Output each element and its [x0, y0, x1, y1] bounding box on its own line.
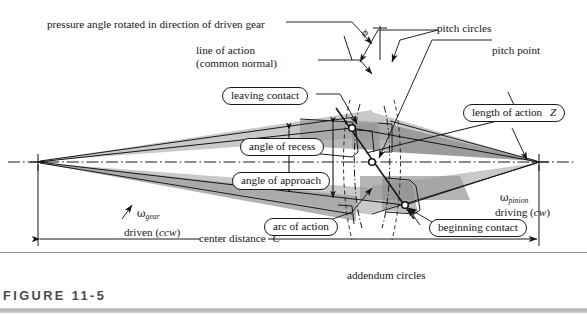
omega-gear-label: ωgear [137, 203, 160, 221]
center-distance-text: center distance [199, 232, 266, 244]
length-of-action-symbol: Z [550, 106, 556, 118]
line-of-action-label: line of action [196, 44, 255, 57]
driven-close: ) [177, 226, 181, 238]
callout-beginning-contact[interactable]: beginning contact [429, 219, 527, 237]
pitch-circles-label: pitch circles [437, 22, 491, 35]
caption-bar [0, 308, 587, 313]
footer-divider [0, 252, 587, 253]
driving-close: ) [546, 206, 550, 218]
driven-direction-label: driven (ccw) [124, 226, 180, 239]
driving-direction-label: driving (cw) [495, 206, 550, 219]
pitch-point-label: pitch point [492, 44, 540, 57]
addendum-circles-label: addendum circles [347, 269, 426, 282]
common-normal-label: (common normal) [196, 57, 277, 70]
omega-pinion-subscript: pinion [508, 196, 528, 205]
driven-text: driven ( [124, 226, 159, 238]
callout-angle-of-approach[interactable]: angle of approach [232, 172, 330, 190]
driven-dir: ccw [159, 226, 176, 238]
center-distance-label: center distance C [199, 232, 280, 245]
callout-angle-of-recess[interactable]: angle of recess [240, 138, 324, 156]
omega-pinion-label: ωpinion [500, 187, 529, 205]
beginning-contact-point [402, 202, 409, 209]
center-distance-symbol: C [273, 232, 280, 244]
length-of-action-text: length of action [472, 106, 542, 118]
figure-page: pressure angle rotated in direction of d… [0, 0, 587, 314]
callout-length-of-action[interactable]: length of action Z [463, 104, 565, 122]
omega-gear-subscript: gear [145, 212, 159, 221]
leaving-contact-point [349, 125, 356, 132]
pressure-angle-label: pressure angle rotated in direction of d… [47, 18, 265, 31]
figure-caption: FIGURE 11-5 [3, 288, 106, 303]
driving-text: driving ( [495, 206, 534, 218]
callout-leaving-contact[interactable]: leaving contact [222, 87, 308, 105]
phi-symbol-label: ϕ [362, 26, 368, 39]
pitch-point-marker [369, 159, 376, 166]
driving-dir: cw [534, 206, 546, 218]
